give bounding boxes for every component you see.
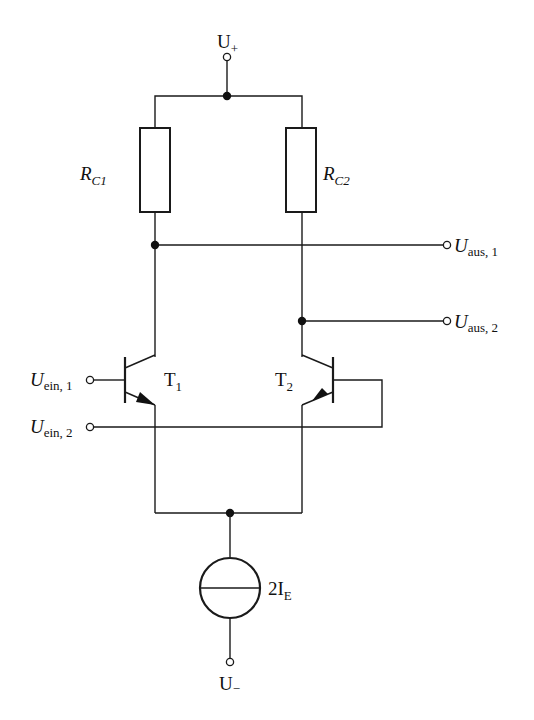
supply-positive-label: U+ <box>217 31 238 56</box>
junction-dot <box>151 241 159 249</box>
differential-amplifier-schematic: U+ RC1 RC2 Uaus, 1 Uaus, 2 <box>0 0 534 720</box>
input-1-terminal <box>86 376 93 383</box>
resistor-rc1-label: RC1 <box>79 163 107 188</box>
positive-supply: U+ <box>217 31 238 96</box>
transistor-t1-label: T1 <box>164 369 182 394</box>
supply-negative-label: U− <box>219 673 240 696</box>
emitter-arrow-icon <box>312 388 328 401</box>
resistor-rc2: RC2 <box>286 128 350 357</box>
output-2: Uaus, 2 <box>298 311 498 335</box>
junction-dot <box>298 317 306 325</box>
output-2-label: Uaus, 2 <box>454 311 498 335</box>
current-source-label: 2IE <box>268 578 292 603</box>
output-1-label: Uaus, 1 <box>454 235 498 259</box>
junction-dot <box>223 92 231 100</box>
output-1-terminal <box>443 241 450 248</box>
output-1: Uaus, 1 <box>151 235 498 259</box>
transistor-t2: T2 Uein, 2 <box>30 355 382 513</box>
top-bus <box>155 92 302 128</box>
output-2-terminal <box>443 317 450 324</box>
input-2-label: Uein, 2 <box>30 416 73 440</box>
resistor-rc2-label: RC2 <box>322 163 350 188</box>
transistor-t2-label: T2 <box>275 369 293 394</box>
emitter-arrow-icon <box>136 392 155 405</box>
negative-supply-terminal <box>226 658 233 665</box>
input-2-terminal <box>86 423 93 430</box>
current-source: 2IE U− <box>155 509 302 696</box>
positive-supply-terminal <box>223 53 230 60</box>
input-1-label: Uein, 1 <box>30 369 73 393</box>
